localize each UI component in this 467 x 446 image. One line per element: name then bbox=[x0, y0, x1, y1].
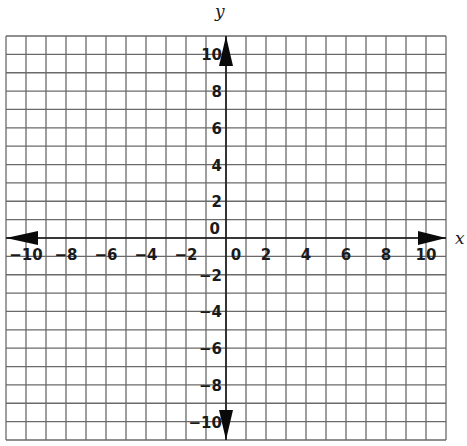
y-tick-label: −6 bbox=[199, 340, 222, 358]
x-tick-label: 8 bbox=[381, 246, 391, 264]
y-tick-label: −8 bbox=[199, 377, 222, 395]
x-tick-labels: −10−8−6−4−20246810 bbox=[9, 246, 436, 264]
y-tick-label: −4 bbox=[199, 303, 222, 321]
y-axis-label: y bbox=[214, 1, 225, 21]
y-tick-label: −2 bbox=[199, 267, 222, 285]
x-tick-label: −4 bbox=[134, 246, 157, 264]
y-tick-label: −10 bbox=[189, 414, 222, 432]
y-tick-label: 6 bbox=[212, 120, 222, 138]
y-tick-labels: −10−8−6−4−20246810 bbox=[189, 46, 222, 431]
x-axis-label: x bbox=[455, 228, 465, 248]
y-tick-label: 8 bbox=[212, 83, 222, 101]
x-axis-right-arrow-icon bbox=[418, 231, 446, 245]
x-tick-label: −6 bbox=[94, 246, 117, 264]
y-tick-label: 0 bbox=[210, 220, 220, 238]
x-axis-left-arrow-icon bbox=[6, 231, 38, 245]
y-tick-label: 2 bbox=[212, 193, 222, 211]
x-tick-label: −8 bbox=[54, 246, 77, 264]
coordinate-plane: −10−8−6−4−20246810 −10−8−6−4−20246810 x … bbox=[0, 0, 467, 446]
x-tick-label: 10 bbox=[416, 246, 437, 264]
axes bbox=[6, 36, 446, 440]
x-tick-label: −2 bbox=[174, 246, 197, 264]
x-tick-label: 6 bbox=[341, 246, 351, 264]
x-tick-label: −10 bbox=[9, 246, 42, 264]
y-tick-label: 4 bbox=[212, 157, 222, 175]
x-tick-label: 2 bbox=[261, 246, 271, 264]
y-tick-label: 10 bbox=[201, 46, 222, 64]
x-tick-label: 4 bbox=[301, 246, 311, 264]
x-tick-label: 0 bbox=[231, 246, 241, 264]
